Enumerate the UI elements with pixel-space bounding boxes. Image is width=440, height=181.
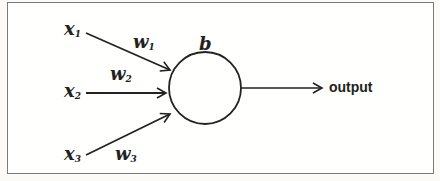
perceptron-diagram: x1 w1 x2 w2 x3 w3 b output	[0, 0, 440, 181]
weight-w3: w3	[115, 143, 137, 164]
weight-w1: w1	[133, 31, 155, 52]
svg-text:x3: x3	[63, 143, 81, 164]
svg-text:w3: w3	[115, 143, 137, 164]
svg-text:x1: x1	[63, 18, 81, 39]
bias-label: b	[199, 33, 212, 54]
svg-text:w2: w2	[110, 63, 132, 84]
arrow-x1	[86, 33, 170, 70]
svg-text:x2: x2	[63, 80, 81, 101]
weight-w2: w2	[110, 63, 132, 84]
neuron-node	[169, 52, 241, 124]
output-label: output	[329, 79, 373, 95]
svg-text:w1: w1	[133, 31, 155, 52]
input-x3: x3	[63, 143, 81, 164]
input-x1: x1	[63, 18, 81, 39]
input-x2: x2	[63, 80, 81, 101]
